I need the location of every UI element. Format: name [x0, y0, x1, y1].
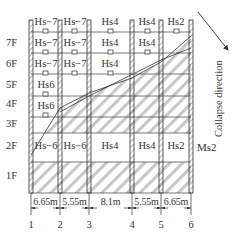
axis-label-6: 6 [188, 219, 193, 230]
span-label: 6.65m [33, 196, 57, 207]
axis-label-4: 4 [129, 219, 134, 230]
room-label: Hs6 [38, 79, 55, 90]
span-label: 5.55m [62, 196, 86, 207]
room-label: Hs2 [168, 140, 185, 151]
room-label: Hs−7 [64, 16, 87, 27]
axis-label-3: 3 [86, 219, 91, 230]
axis-label-2: 2 [57, 219, 62, 230]
room-label: Hs−7 [35, 37, 58, 48]
room-label: Hs2 [168, 16, 185, 27]
room-label: Hs4 [102, 58, 119, 69]
room-label: Hs4 [102, 37, 119, 48]
room-label: Hs−7 [64, 37, 87, 48]
axis-label-5: 5 [158, 219, 163, 230]
room-label: Hs4 [102, 140, 119, 151]
ms2-label: Ms2 [197, 142, 217, 153]
room-label: Hs−7 [35, 16, 58, 27]
room-label: Hs4 [139, 37, 156, 48]
axis-label-1: 1 [28, 219, 33, 230]
span-label: 6.65m [164, 196, 188, 207]
span-label: 5.55m [134, 196, 158, 207]
room-label: Hs6 [38, 100, 55, 111]
collapse-direction-label: Collapse direction [213, 60, 224, 137]
room-label: Hs−7 [64, 58, 87, 69]
floor-label-6f: 6F [6, 58, 17, 69]
floor-label-7f: 7F [6, 37, 17, 48]
span-label: 8.1m [101, 196, 120, 207]
floor-label-1f: 1F [6, 170, 17, 181]
room-label: Hs4 [102, 16, 119, 27]
floor-label-5f: 5F [6, 79, 17, 90]
room-label: Hs4 [139, 16, 156, 27]
floor-label-2f: 2F [6, 140, 17, 151]
collapse-direction-arrow [198, 12, 228, 50]
floor-label-4f: 4F [6, 98, 17, 109]
room-label: Hs−6 [64, 140, 87, 151]
floor-label-3f: 3F [6, 118, 17, 129]
room-label: Hs4 [139, 140, 156, 151]
room-label: Hs−6 [35, 140, 58, 151]
room-label: Hs−7 [35, 58, 58, 69]
